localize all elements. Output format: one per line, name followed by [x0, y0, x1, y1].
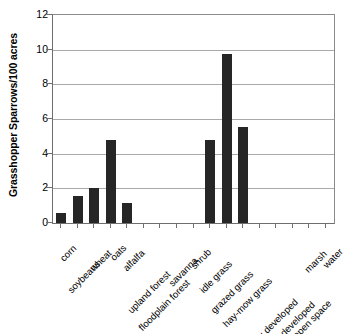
y-axis-title: Grasshopper Sparrows/100 acres [0, 0, 26, 230]
y-tick-label: 12 [24, 9, 48, 20]
bar[interactable] [222, 54, 232, 223]
x-tick-mark [176, 223, 177, 228]
bar[interactable] [56, 213, 66, 223]
x-tick-mark [193, 223, 194, 228]
x-tick-label: water [321, 247, 344, 270]
x-tick-mark [60, 223, 61, 228]
x-tick-mark [126, 223, 127, 228]
x-tick-label: corn [59, 243, 79, 263]
plot-area [52, 14, 335, 224]
bar-series [53, 15, 334, 223]
x-tick-label: shrub [189, 247, 213, 271]
y-tick-label: 10 [24, 43, 48, 54]
x-tick-mark [325, 223, 326, 228]
x-tick-mark [275, 223, 276, 228]
x-tick-mark [226, 223, 227, 228]
y-tick-label: 4 [24, 147, 48, 158]
bar[interactable] [205, 140, 215, 223]
x-tick-mark [110, 223, 111, 228]
x-tick-mark [242, 223, 243, 228]
y-tick-label: 2 [24, 182, 48, 193]
x-tick-mark [259, 223, 260, 228]
x-tick-mark [209, 223, 210, 228]
y-tick-label: 0 [24, 217, 48, 228]
x-tick-mark [77, 223, 78, 228]
bar[interactable] [89, 188, 99, 223]
bar[interactable] [122, 203, 132, 223]
y-axis-title-text: Grasshopper Sparrows/100 acres [7, 33, 19, 197]
x-tick-mark [308, 223, 309, 228]
chart-figure: Grasshopper Sparrows/100 acres 024681012… [0, 0, 344, 334]
y-tick-label: 6 [24, 113, 48, 124]
y-tick-label: 8 [24, 78, 48, 89]
bar[interactable] [238, 127, 248, 223]
x-tick-mark [159, 223, 160, 228]
x-tick-mark [143, 223, 144, 228]
bar[interactable] [106, 140, 116, 223]
bar[interactable] [73, 196, 83, 223]
x-tick-mark [93, 223, 94, 228]
x-tick-mark [292, 223, 293, 228]
